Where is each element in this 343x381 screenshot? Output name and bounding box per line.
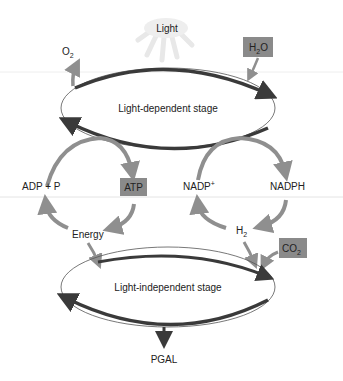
pgal-label: PGAL — [151, 354, 178, 365]
energy-input-arrow — [88, 243, 98, 262]
energy-label: Energy — [72, 229, 104, 240]
adp-p-label: ADP + P — [22, 181, 61, 192]
o2-label: O2 — [62, 46, 74, 59]
light-dependent-stage-label: Light-dependent stage — [118, 103, 218, 114]
co2-input-arrow — [264, 252, 278, 264]
o2-output-arrow — [73, 66, 76, 86]
nadph-label: NADPH — [270, 181, 305, 192]
light-label: Light — [156, 23, 178, 34]
light-independent-stage-label: Light-independent stage — [114, 282, 222, 293]
atp-label: ATP — [124, 182, 143, 193]
photosynthesis-diagram: Light Light-dependent stage O2 H2O ADP +… — [0, 0, 343, 381]
h2-label: H2 — [236, 225, 247, 238]
nadp-plus-label: NADP+ — [183, 180, 215, 192]
h2o-input-arrow — [250, 58, 258, 76]
